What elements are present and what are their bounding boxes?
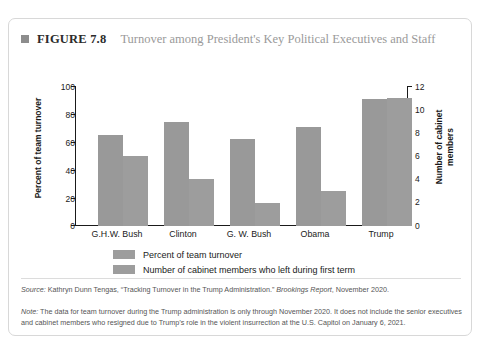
square-bullet-icon [21, 35, 29, 43]
figure-number: FIGURE 7.8 [37, 32, 106, 47]
bar-group-trump [357, 86, 417, 226]
note-text: The data for team turnover during the Tr… [21, 307, 462, 327]
chart-legend: Percent of team turnover Number of cabin… [113, 247, 443, 277]
chart-plot-area: Percent of team turnover 100 80 60 40 20… [9, 57, 473, 242]
y-left-tick-20: 20 [49, 194, 75, 204]
y-axis-right-label-text: Number of cabinetmembers [434, 110, 456, 185]
bar-group-clinton [159, 86, 219, 226]
bar-group-gw-bush [225, 86, 285, 226]
bar-turnover-gw-bush [230, 139, 255, 227]
bar-group-ghw-bush [93, 86, 153, 226]
footnote-divider [21, 278, 461, 279]
legend-item-turnover: Percent of team turnover [113, 247, 443, 262]
legend-swatch-turnover [113, 250, 135, 259]
bar-cabinet-obama [321, 191, 346, 226]
figure-header: FIGURE 7.8 Turnover among President's Ke… [21, 29, 461, 49]
y-axis-right-label-line2: members [445, 128, 455, 166]
y-axis-right-label: Number of cabinetmembers [429, 87, 461, 207]
legend-item-cabinet: Number of cabinet members who left durin… [113, 262, 443, 277]
bar-turnover-obama [296, 127, 321, 226]
bar-cabinet-trump [387, 98, 412, 226]
y-axis-right-label-line1: Number of cabinet [434, 110, 444, 185]
figure-source: Source: Kathryn Dunn Tengas, “Tracking T… [21, 285, 465, 295]
bar-cabinet-ghw-bush [123, 156, 148, 226]
y-left-tick-60: 60 [49, 138, 75, 148]
figure-card: FIGURE 7.8 Turnover among President's Ke… [8, 18, 472, 336]
source-text: Kathryn Dunn Tengas, “Tracking Turnover … [46, 285, 277, 294]
bar-cabinet-clinton [189, 179, 214, 226]
y-left-tick-100: 100 [49, 82, 75, 92]
y-left-tick-40: 40 [49, 166, 75, 176]
y-left-tick-0: 0 [49, 221, 75, 231]
legend-swatch-cabinet [113, 265, 135, 274]
bar-turnover-trump [362, 99, 387, 226]
legend-label-turnover: Percent of team turnover [143, 250, 242, 260]
bar-turnover-ghw-bush [98, 135, 123, 226]
legend-label-cabinet: Number of cabinet members who left durin… [143, 265, 355, 275]
source-publication: Brookings Report [276, 285, 332, 294]
note-prefix: Note: [21, 307, 38, 316]
source-prefix: Source: [21, 285, 46, 294]
y-left-tick-80: 80 [49, 110, 75, 120]
x-axis-label-trump: Trump [339, 229, 423, 239]
bar-turnover-clinton [164, 122, 189, 226]
bars-layer [75, 86, 408, 226]
source-suffix: , November 2020. [332, 285, 389, 294]
figure-title: Turnover among President's Key Political… [120, 32, 435, 47]
bar-cabinet-gw-bush [255, 203, 280, 226]
figure-note: Note: The data for team turnover during … [21, 307, 465, 328]
y-axis-left-ticks: 100 80 60 40 20 0 [41, 57, 75, 242]
bar-group-obama [291, 86, 351, 226]
